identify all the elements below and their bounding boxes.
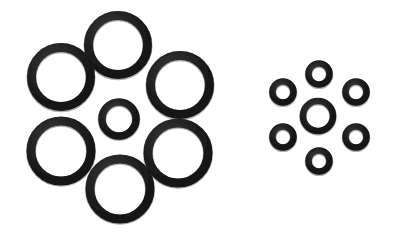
product-photo: Large O-ring set Small O-ring set	[0, 0, 404, 235]
o-ring-illustration	[0, 0, 404, 235]
